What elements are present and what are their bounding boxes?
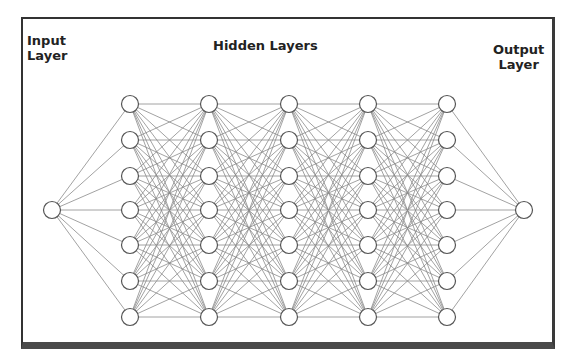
hidden-1-node [122,96,139,113]
connection-edge [52,140,130,210]
connection-edge [52,176,130,210]
neurons [44,96,533,326]
connection-edge [52,210,130,281]
hidden-1-node [122,273,139,290]
hidden-5-node [439,202,456,219]
hidden-4-node [360,273,377,290]
hidden-1-node [122,309,139,326]
hidden-5-node [439,273,456,290]
hidden-3-node [281,168,298,185]
connection-edge [447,210,524,317]
connection-edge [52,104,130,210]
connection-edge [447,176,524,210]
connection-edge [447,140,524,210]
hidden-5-node [439,237,456,254]
hidden-4-node [360,96,377,113]
hidden-2-node [201,309,218,326]
hidden-1-node [122,237,139,254]
input-node [44,202,61,219]
hidden-4-node [360,237,377,254]
hidden-2-node [201,273,218,290]
hidden-5-node [439,168,456,185]
hidden-2-node [201,132,218,149]
hidden-2-node [201,202,218,219]
hidden-3-node [281,96,298,113]
hidden-5-node [439,132,456,149]
hidden-1-node [122,132,139,149]
hidden-3-node [281,202,298,219]
hidden-3-node [281,237,298,254]
hidden-4-node [360,132,377,149]
hidden-3-node [281,273,298,290]
hidden-3-node [281,132,298,149]
connection-edge [447,210,524,245]
hidden-2-node [201,168,218,185]
connection-edge [447,210,524,281]
hidden-4-node [360,202,377,219]
connection-edge [52,210,130,317]
neural-network-graph [0,0,571,362]
hidden-5-node [439,96,456,113]
hidden-2-node [201,96,218,113]
hidden-1-node [122,202,139,219]
hidden-4-node [360,168,377,185]
hidden-1-node [122,168,139,185]
hidden-3-node [281,309,298,326]
hidden-2-node [201,237,218,254]
output-node [516,202,533,219]
connection-edge [52,210,130,245]
connection-edge [447,104,524,210]
hidden-4-node [360,309,377,326]
hidden-5-node [439,309,456,326]
